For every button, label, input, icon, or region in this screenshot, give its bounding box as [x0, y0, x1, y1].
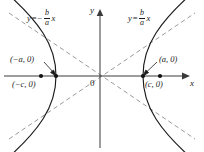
asymptote-right-fraction: b a [139, 9, 145, 27]
hyperbola-figure: y = − b a x y = b a x (−a, 0) (a, 0) (−c… [0, 0, 204, 152]
x-axis-arrow-icon [182, 73, 190, 80]
asymptote-right-numerator: b [139, 9, 145, 17]
vertex-left-leader-arrow-icon [51, 70, 56, 76]
vertex-left-label: (−a, 0) [10, 55, 34, 64]
focus-left-dot [39, 74, 43, 78]
vertex-right-leader-line [146, 62, 157, 73]
asymptote-left-equals: = [32, 14, 37, 23]
asymptote-left-sign: − [38, 14, 43, 23]
y-axis-label: y [90, 6, 94, 15]
y-axis [97, 9, 104, 148]
focus-right-label: (c, 0) [145, 80, 163, 89]
asymptote-left-denominator: a [44, 19, 50, 27]
y-axis-arrow-icon [97, 9, 104, 16]
focus-right-dot [158, 74, 162, 78]
x-axis-label: x [190, 79, 194, 88]
asymptote-left-lhs: y [27, 14, 31, 23]
asymptote-left-variable: x [51, 14, 55, 23]
asymptote-left-equation: y = − b a x [27, 9, 55, 27]
vertex-right-label: (a, 0) [159, 55, 177, 64]
asymptote-right-denominator: a [139, 19, 145, 27]
asymptote-left-numerator: b [44, 9, 50, 17]
origin-label: 0 [90, 79, 95, 88]
asymptote-right-equation: y = b a x [128, 9, 150, 27]
focus-left-label: (−c, 0) [12, 80, 36, 89]
asymptote-right-lhs: y [128, 14, 132, 23]
asymptote-right-variable: x [147, 14, 151, 23]
asymptote-left-fraction: b a [44, 9, 50, 27]
asymptote-right-equals: = [133, 14, 138, 23]
